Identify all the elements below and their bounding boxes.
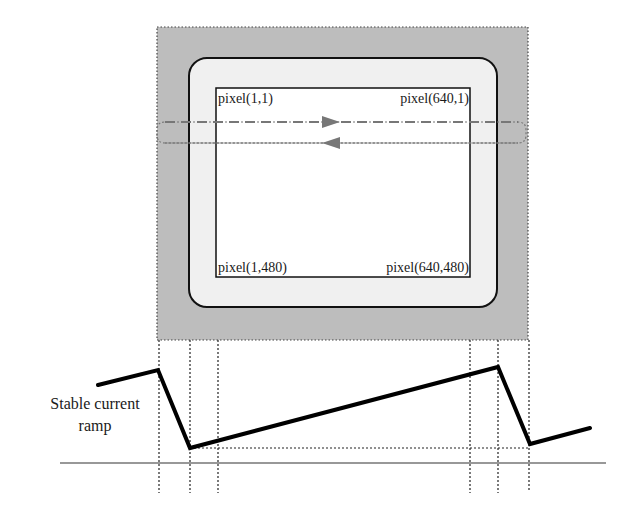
label-bottom-left: pixel(1,480) [218, 260, 287, 276]
waveform-label-line1: Stable current [50, 395, 140, 412]
current-ramp-waveform [98, 367, 590, 448]
waveform-label-line2: ramp [79, 417, 112, 435]
diagram-canvas: pixel(1,1) pixel(640,1) pixel(1,480) pix… [0, 0, 634, 521]
label-top-right: pixel(640,1) [400, 91, 469, 107]
label-bottom-right: pixel(640,480) [386, 260, 469, 276]
timing-guides [159, 340, 529, 493]
label-top-left: pixel(1,1) [218, 91, 273, 107]
visible-screen [216, 88, 470, 277]
